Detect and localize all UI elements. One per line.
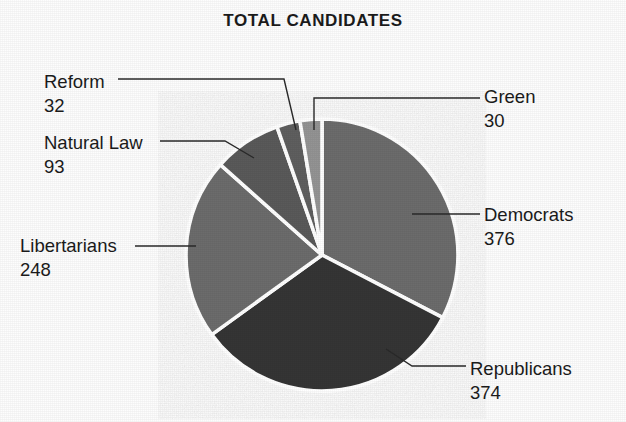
label-libertarians: Libertarians 248 [20,234,117,281]
label-green: Green 30 [484,85,535,132]
label-reform-value: 32 [44,94,105,118]
label-democrats-value: 376 [484,227,573,251]
label-reform-name: Reform [44,70,105,94]
label-republicans-value: 374 [470,381,572,405]
label-republicans: Republicans 374 [470,357,572,404]
label-democrats-name: Democrats [484,203,573,227]
label-natural-law: Natural Law 93 [44,131,143,178]
label-green-value: 30 [484,109,535,133]
label-libertarians-name: Libertarians [20,234,117,258]
label-green-name: Green [484,85,535,109]
chart-page: TOTAL CANDIDATES [0,0,626,422]
label-natural-law-value: 93 [44,155,143,179]
label-natural-law-name: Natural Law [44,131,143,155]
leader-line-reform [118,79,296,130]
label-republicans-name: Republicans [470,357,572,381]
label-reform: Reform 32 [44,70,105,117]
label-democrats: Democrats 376 [484,203,573,250]
pie-slices [186,119,458,391]
label-libertarians-value: 248 [20,258,117,282]
